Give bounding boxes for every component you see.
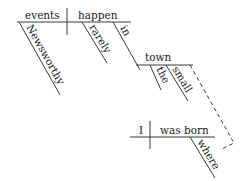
modifier-rarely: rarely [87, 22, 114, 55]
subject-word: events [25, 9, 60, 21]
object-town: town [145, 51, 172, 63]
relative-subject: I [139, 124, 143, 136]
modifier-newsworthy: Newsworthy [24, 22, 67, 86]
predicate-word: happen [78, 9, 118, 21]
relative-predicate: was born [160, 124, 209, 136]
modifier-where: where [195, 137, 223, 172]
sentence-diagram: events happen Newsworthy rarely in town … [0, 0, 248, 181]
